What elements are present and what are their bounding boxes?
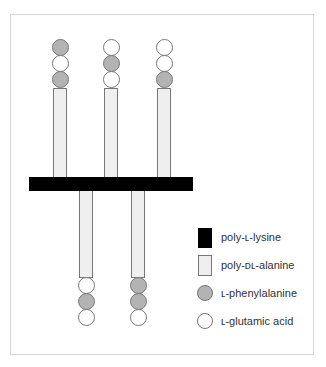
glutamic-acid-residue (78, 277, 95, 294)
poly-alanine-rod (79, 190, 93, 278)
phenylalanine-residue (156, 71, 173, 88)
phenylalanine-residue (52, 39, 69, 56)
legend-label-poly-lysine: poly-ʟ-lysine (221, 231, 281, 243)
glutamic-acid-residue (156, 39, 173, 56)
glutamic-acid-swatch-icon (197, 313, 213, 329)
poly-lysine-swatch-icon (198, 228, 212, 248)
phenylalanine-residue (78, 293, 95, 310)
poly-alanine-rod (53, 88, 67, 178)
glutamic-acid-residue (78, 309, 95, 326)
glutamic-acid-residue (103, 39, 120, 56)
poly-alanine-rod (157, 88, 171, 178)
legend-label-poly-alanine: poly-ᴅʟ-alanine (221, 259, 295, 271)
legend-label-glutamic-acid: ʟ-glutamic acid (221, 315, 293, 327)
phenylalanine-swatch-icon (197, 285, 213, 301)
glutamic-acid-residue (52, 55, 69, 72)
glutamic-acid-residue (156, 55, 173, 72)
legend-label-phenylalanine: ʟ-phenylalanine (221, 287, 297, 299)
phenylalanine-residue (103, 55, 120, 72)
poly-lysine-backbone (29, 177, 193, 191)
glutamic-acid-residue (130, 309, 147, 326)
phenylalanine-residue (52, 71, 69, 88)
phenylalanine-residue (130, 293, 147, 310)
poly-alanine-rod (104, 88, 118, 178)
poly-alanine-rod (131, 190, 145, 278)
glutamic-acid-residue (103, 71, 120, 88)
poly-alanine-swatch-icon (198, 255, 212, 276)
phenylalanine-residue (130, 277, 147, 294)
